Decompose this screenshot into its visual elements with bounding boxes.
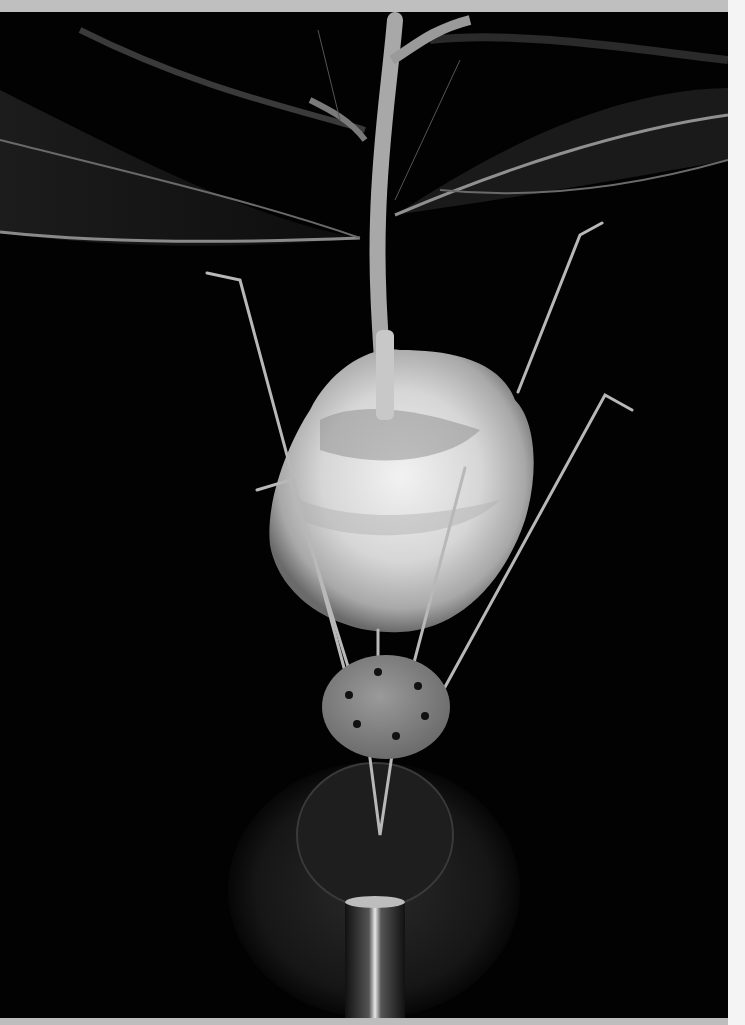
foam-ball	[269, 330, 533, 632]
wire-holder-disc	[322, 655, 450, 759]
bottom-scan-band	[0, 1018, 728, 1025]
photo-illustration	[0, 12, 728, 1018]
page-margin	[728, 0, 745, 1025]
top-scan-band	[0, 0, 728, 12]
photograph	[0, 12, 728, 1018]
